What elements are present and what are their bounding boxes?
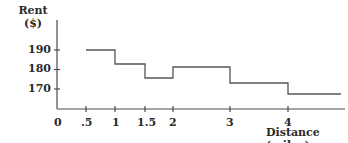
x-tick-2: 2: [169, 116, 177, 129]
x-axis-label: Distance (miles): [266, 126, 348, 143]
rent-step-line: [86, 50, 341, 94]
y-tick-180: 180: [28, 62, 51, 75]
y-tick-190: 190: [28, 43, 51, 56]
x-tick-1.5: 1.5: [137, 116, 156, 129]
x-tick-3: 3: [226, 116, 234, 129]
y-tick-170: 170: [28, 82, 51, 95]
x-tick-0: 0: [54, 116, 62, 129]
x-tick-0.5: .5: [81, 116, 92, 129]
x-tick-1: 1: [112, 116, 120, 129]
